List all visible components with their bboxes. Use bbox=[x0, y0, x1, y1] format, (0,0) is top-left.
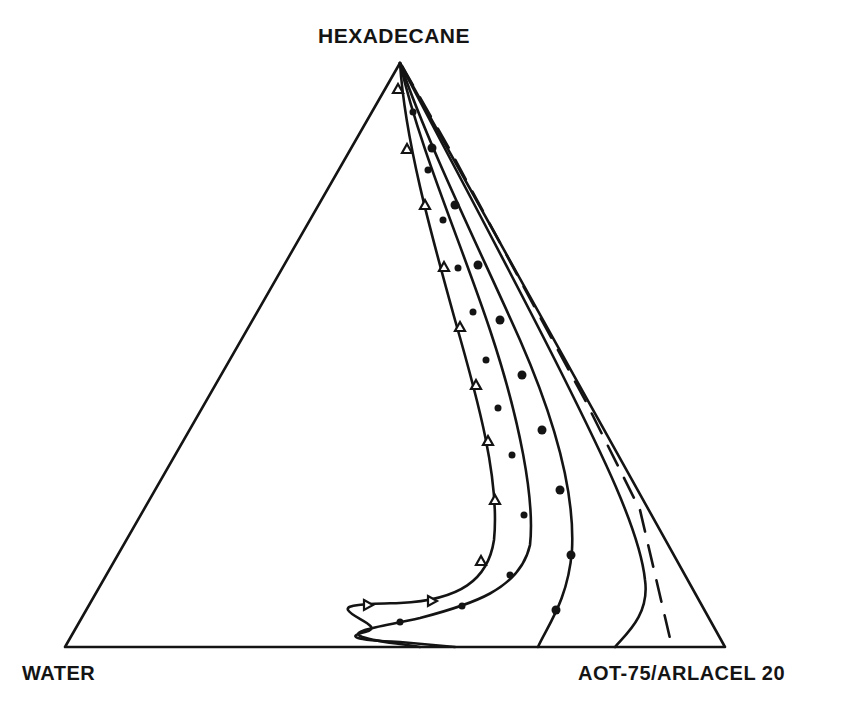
dashed-curve bbox=[402, 66, 672, 647]
ternary-diagram bbox=[0, 0, 868, 708]
triangle-markers bbox=[364, 84, 500, 610]
triangle-marker-icon bbox=[476, 556, 486, 565]
triangle-marker-icon bbox=[364, 600, 373, 610]
triangle-marker-icon bbox=[420, 200, 430, 209]
dot-markers bbox=[397, 109, 576, 626]
triangle-frame bbox=[65, 63, 725, 647]
triangle-marker-curve bbox=[348, 63, 495, 647]
dot-curve-outer bbox=[400, 63, 646, 647]
triangle-marker-icon bbox=[490, 495, 500, 504]
